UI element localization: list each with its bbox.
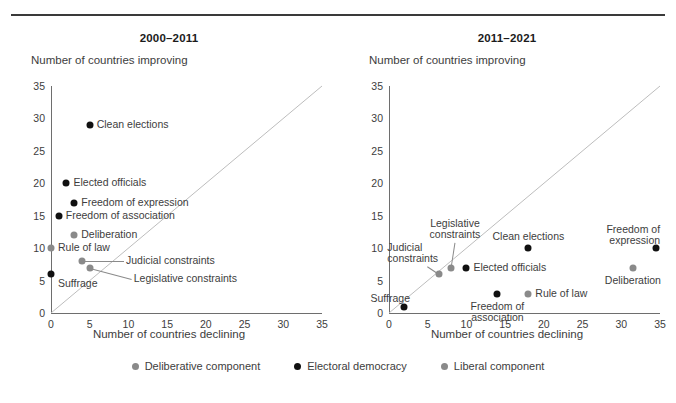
x-tick-left-15: 15 xyxy=(157,318,177,330)
data-label-freedom-of-expression: Freedom of expression xyxy=(81,197,188,208)
y-tick-right-5: 5 xyxy=(365,275,383,287)
data-point-freedom-of-association xyxy=(494,290,501,297)
data-label-freedom-of-association: Freedom of association xyxy=(66,210,175,221)
y-tick-left-30: 30 xyxy=(27,112,45,124)
data-point-deliberation xyxy=(71,232,78,239)
data-label-judicial-constraints: Judicial constraints xyxy=(387,242,471,264)
y-tick-left-10: 10 xyxy=(27,242,45,254)
y-tick-right-25: 25 xyxy=(365,145,383,157)
data-label-suffrage: Suffrage xyxy=(370,293,410,304)
data-point-deliberation xyxy=(629,264,636,271)
x-tick-left-0: 0 xyxy=(41,318,61,330)
legend-item-liberal-component[interactable]: Liberal component xyxy=(441,360,545,372)
chart-legend: Deliberative componentElectoral democrac… xyxy=(0,360,676,372)
data-label-rule-of-law: Rule of law xyxy=(58,242,110,253)
x-tick-left-10: 10 xyxy=(118,318,138,330)
y-tick-right-35: 35 xyxy=(365,80,383,92)
data-label-judicial-constraints: Judicial constraints xyxy=(126,255,215,266)
chart-panel-2000-2011: 2000–2011 Number of countries improving … xyxy=(0,26,338,356)
x-tick-left-25: 25 xyxy=(235,318,255,330)
plot-area-right: 0510152025303505101520253035Legislative … xyxy=(338,26,676,356)
data-point-clean-elections xyxy=(86,121,93,128)
y-tick-right-30: 30 xyxy=(365,112,383,124)
legend-label: Liberal component xyxy=(454,360,545,372)
x-axis-line-left xyxy=(51,313,322,314)
data-label-legislative-constraints: Legislative constraints xyxy=(413,218,497,240)
x-tick-left-35: 35 xyxy=(312,318,332,330)
data-label-elected-officials: Elected officials xyxy=(73,177,146,188)
figure-root: 2000–2011 Number of countries improving … xyxy=(0,0,676,403)
y-tick-right-10: 10 xyxy=(365,242,383,254)
data-point-suffrage xyxy=(401,303,408,310)
data-point-freedom-of-association xyxy=(55,212,62,219)
data-point-rule-of-law xyxy=(48,245,55,252)
dot-icon xyxy=(294,363,301,370)
top-divider-rule xyxy=(11,14,665,16)
y-tick-left-5: 5 xyxy=(27,275,45,287)
dot-icon xyxy=(132,363,139,370)
y-tick-left-35: 35 xyxy=(27,80,45,92)
data-point-suffrage xyxy=(48,271,55,278)
y-tick-left-20: 20 xyxy=(27,177,45,189)
x-tick-left-5: 5 xyxy=(80,318,100,330)
data-label-clean-elections: Clean elections xyxy=(97,119,169,130)
y-axis-line-right xyxy=(389,86,390,313)
chart-panel-2011-2021: 2011–2021 Number of countries improving … xyxy=(338,26,676,356)
legend-label: Deliberative component xyxy=(145,360,261,372)
data-point-freedom-of-expression xyxy=(71,199,78,206)
legend-label: Electoral democracy xyxy=(307,360,407,372)
x-tick-right-25: 25 xyxy=(573,318,593,330)
x-tick-right-35: 35 xyxy=(650,318,670,330)
y-tick-right-20: 20 xyxy=(365,177,383,189)
x-tick-left-20: 20 xyxy=(196,318,216,330)
legend-item-deliberative-component[interactable]: Deliberative component xyxy=(132,360,261,372)
data-label-clean-elections: Clean elections xyxy=(492,231,564,242)
data-label-deliberation: Deliberation xyxy=(81,229,137,240)
data-point-rule-of-law xyxy=(525,290,532,297)
plot-area-left: 0510152025303505101520253035Clean electi… xyxy=(0,26,338,356)
data-point-elected-officials xyxy=(463,264,470,271)
y-tick-right-15: 15 xyxy=(365,210,383,222)
y-tick-left-15: 15 xyxy=(27,210,45,222)
data-point-elected-officials xyxy=(63,180,70,187)
data-label-freedom-of-expression: Freedom of expression xyxy=(576,224,660,246)
data-point-clean-elections xyxy=(525,245,532,252)
dot-icon xyxy=(441,363,448,370)
x-tick-right-5: 5 xyxy=(418,318,438,330)
legend-item-electoral-democracy[interactable]: Electoral democracy xyxy=(294,360,407,372)
x-tick-right-30: 30 xyxy=(611,318,631,330)
data-label-elected-officials: Elected officials xyxy=(473,262,546,273)
y-tick-left-25: 25 xyxy=(27,145,45,157)
x-tick-left-30: 30 xyxy=(273,318,293,330)
data-label-freedom-of-association: Freedom of association xyxy=(455,301,539,323)
data-label-rule-of-law: Rule of law xyxy=(535,288,587,299)
data-label-deliberation: Deliberation xyxy=(591,275,675,286)
data-label-suffrage: Suffrage xyxy=(58,278,98,289)
y-axis-line-left xyxy=(51,86,52,313)
data-label-legislative-constraints: Legislative constraints xyxy=(134,273,237,284)
x-tick-right-0: 0 xyxy=(379,318,399,330)
leader-line-judicial-constraints xyxy=(82,261,124,262)
